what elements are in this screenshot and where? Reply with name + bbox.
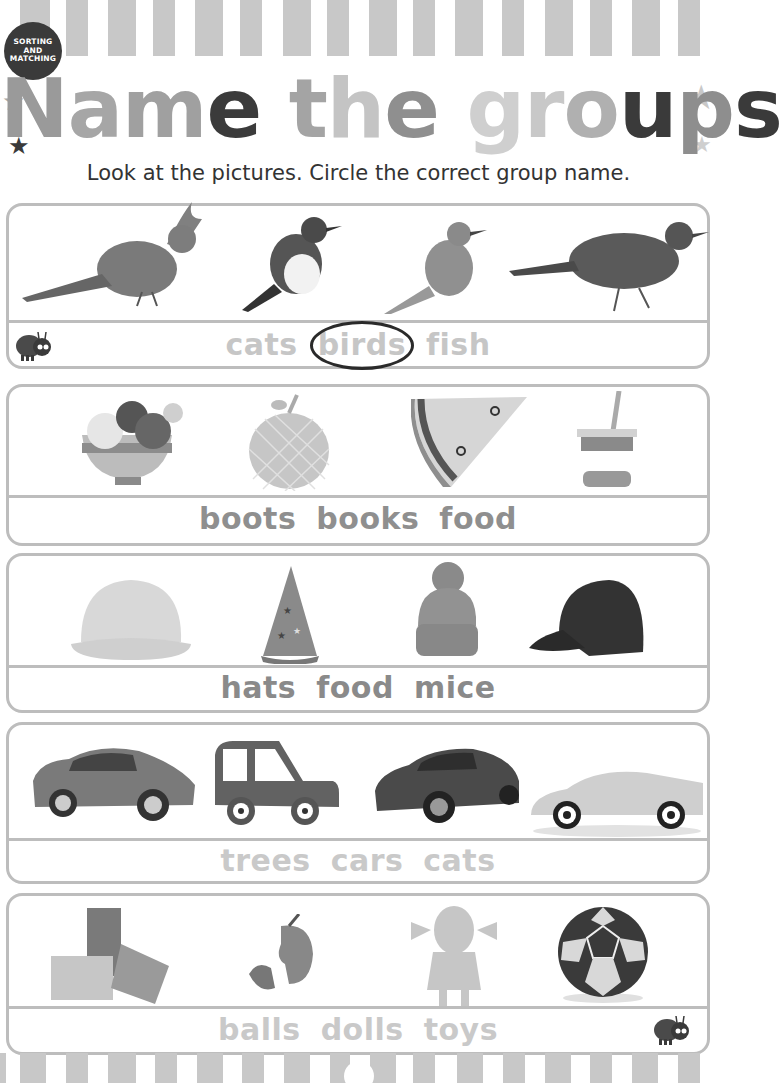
word-option[interactable]: fish	[426, 327, 491, 362]
word-option[interactable]: boots	[199, 501, 296, 536]
soccer-ball-image	[555, 902, 651, 1006]
title-letter: r	[524, 61, 563, 156]
word-option[interactable]: trees	[220, 843, 310, 878]
svg-text:★: ★	[283, 605, 292, 616]
title-letter: N	[0, 61, 68, 156]
instructions: Look at the pictures. Circle the correct…	[0, 161, 717, 185]
ladybug-icon	[653, 1014, 693, 1046]
building-blocks-image	[45, 904, 175, 1004]
word-option[interactable]: mice	[414, 670, 496, 705]
word-option[interactable]: cats	[225, 327, 297, 362]
title-letter: g	[466, 61, 524, 156]
word-choices: bootsbooksfood	[9, 501, 707, 536]
divider	[9, 665, 707, 668]
badge-line1: SORTING AND	[14, 37, 53, 55]
word-option[interactable]: cars	[331, 843, 404, 878]
word-option[interactable]: food	[316, 670, 394, 705]
word-choices: ballsdollstoys	[9, 1012, 707, 1047]
word-option[interactable]: dolls	[321, 1012, 404, 1047]
title-letter: s	[734, 61, 782, 156]
sedan-image	[29, 741, 199, 827]
word-option[interactable]: food	[439, 501, 517, 536]
title-letter	[261, 61, 289, 156]
title-letter: h	[327, 61, 384, 156]
title-letter: e	[206, 61, 261, 156]
bottom-stripes	[0, 1053, 717, 1083]
word-option[interactable]: balls	[218, 1012, 301, 1047]
title-letter	[439, 61, 467, 156]
divider	[9, 495, 707, 498]
title-letter: m	[122, 61, 206, 156]
party-hat-image: ★★★	[257, 564, 323, 664]
group-panel-food: bootsbooksfood	[6, 384, 710, 546]
word-option[interactable]: toys	[424, 1012, 498, 1047]
group-panel-birds: catsbirdsfish	[6, 203, 710, 369]
sports-car-image	[527, 765, 707, 839]
title-letter: t	[289, 61, 327, 156]
page-number-circle	[344, 1061, 374, 1083]
word-choices: hatsfoodmice	[9, 670, 707, 705]
title-letter: u	[619, 61, 676, 156]
baseball-cap-image	[529, 572, 649, 662]
title-letter: p	[676, 61, 734, 156]
page-title: Name the groups	[0, 68, 717, 150]
word-option-circled[interactable]: birds	[318, 327, 406, 362]
pizza-slice-image	[411, 393, 531, 489]
cartoon-car-image	[213, 741, 339, 829]
bluebird-image	[379, 216, 499, 316]
group-panel-cars: treescarscats	[6, 722, 710, 884]
sports-sedan-image	[373, 741, 523, 827]
svg-text:★: ★	[277, 630, 286, 641]
yogurt-image	[575, 391, 645, 491]
divider	[9, 838, 707, 841]
word-option[interactable]: hats	[220, 670, 296, 705]
apple-image	[245, 389, 335, 491]
answer-circle	[310, 321, 414, 370]
svg-text:★: ★	[293, 626, 301, 636]
ice-cream-sundae-image	[77, 387, 187, 489]
bobble-hat-image	[412, 562, 482, 662]
robin-image	[234, 214, 354, 314]
group-panel-toys: ballsdollstoys	[6, 893, 710, 1055]
word-choices: catsbirdsfish	[9, 327, 707, 362]
blackbird-image	[509, 216, 709, 316]
jigsaw-puzzle-image	[245, 914, 325, 994]
word-choices: treescarscats	[9, 843, 707, 878]
title-letter: a	[68, 61, 122, 156]
doll-image	[409, 902, 499, 1010]
divider	[9, 1006, 707, 1009]
title-letter: o	[564, 61, 619, 156]
word-option[interactable]: cats	[423, 843, 495, 878]
top-stripes	[0, 0, 717, 56]
title-letter: e	[384, 61, 439, 156]
word-option[interactable]: books	[316, 501, 419, 536]
group-panel-hats: ★★★ hatsfoodmice	[6, 553, 710, 713]
hard-hat-image	[71, 572, 191, 662]
cardinal-image	[17, 194, 207, 312]
